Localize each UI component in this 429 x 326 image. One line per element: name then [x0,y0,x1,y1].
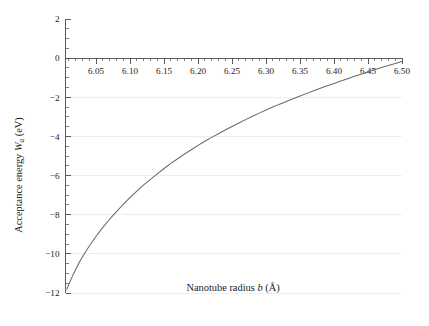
x-tick-label-6.30: 6.30 [258,66,274,76]
x-tick-label-6.05: 6.05 [88,66,104,76]
y-tick-label--10: −10 [45,249,60,259]
x-tick-label-6.20: 6.20 [190,66,206,76]
y-tick-label-2: 2 [55,14,60,24]
chart-figure: 6.056.106.156.206.256.306.356.406.456.50… [0,0,429,326]
y-tick-label--2: −2 [50,93,60,103]
y-tick-labels-group: 20−2−4−6−8−10−12 [45,14,60,298]
y-axis-title: Acceptance energy Wa (eV) [13,117,26,233]
y-tick-label--6: −6 [50,171,60,181]
x-tick-label-6.40: 6.40 [326,66,342,76]
y-tick-label-0: 0 [55,53,60,63]
x-tick-label-6.35: 6.35 [292,66,308,76]
x-tick-label-6.50: 6.50 [394,66,410,76]
y-axis-ticks-group [66,19,72,293]
x-tick-label-6.25: 6.25 [224,66,240,76]
acceptance-energy-line-chart: 6.056.106.156.206.256.306.356.406.456.50… [0,0,429,326]
gridlines-group [66,97,403,293]
y-tick-label--12: −12 [45,288,60,298]
x-axis-ticks-group [69,58,402,64]
x-axis-title: Nanotube radius b (Å) [186,282,279,294]
x-tick-label-6.15: 6.15 [156,66,172,76]
y-tick-label--8: −8 [50,210,60,220]
x-tick-label-6.10: 6.10 [122,66,138,76]
y-tick-label--4: −4 [50,132,60,142]
x-tick-label-6.45: 6.45 [360,66,376,76]
x-tick-labels-group: 6.056.106.156.206.256.306.356.406.456.50 [88,66,410,76]
